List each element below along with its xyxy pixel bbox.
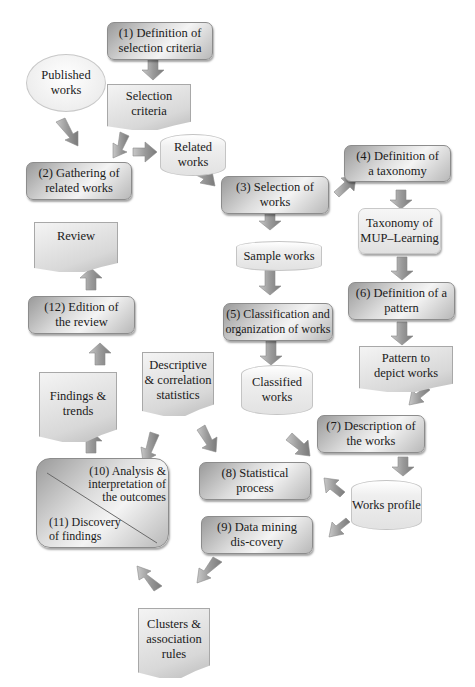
step-4-label: (4) Definition of a taxonomy — [353, 149, 443, 179]
step-2-label: (2) Gathering of related works — [34, 166, 124, 196]
selection-criteria-label: Selection criteria — [119, 89, 179, 119]
published-works-cloud: Published works — [26, 54, 106, 112]
step-6-label: (6) Definition of a pattern — [356, 286, 448, 316]
pattern-to-depict-works-document: Pattern to depict works — [359, 346, 453, 392]
step-8-statistical-process: (8) Statistical process — [199, 462, 311, 500]
sample-works-database: Sample works — [236, 241, 322, 271]
clusters-association-rules-document: Clusters & association rules — [138, 608, 210, 678]
findings-and-trends-document: Findings & trends — [39, 372, 117, 442]
step-9-label: (9) Data mining dis-covery — [207, 520, 307, 550]
step-7-label: (7) Description of the works — [319, 419, 423, 449]
step-6-definition-of-a-pattern: (6) Definition of a pattern — [348, 282, 455, 320]
step-12-label: (12) Edition of the review — [42, 300, 122, 330]
step-5-classification-and-organization: (5) Classification and organization of w… — [223, 303, 333, 341]
review-label: Review — [57, 229, 95, 244]
sample-works-label: Sample works — [243, 249, 314, 264]
step-9-data-mining-discovery: (9) Data mining dis-covery — [201, 516, 313, 554]
step-10-11-analysis-and-discovery: (10) Analysis & interpretation of the ou… — [36, 458, 169, 548]
works-profile-label: Works profile — [352, 498, 421, 513]
selection-criteria-document: Selection criteria — [107, 84, 191, 130]
step-1-definition-of-selection-criteria: (1) Definition of selection criteria — [107, 22, 213, 60]
step-4-definition-of-a-taxonomy: (4) Definition of a taxonomy — [344, 145, 451, 182]
step-12-edition-of-the-review: (12) Edition of the review — [28, 296, 135, 334]
related-works-database: Related works — [160, 134, 226, 176]
step-11-label: (11) Discovery of findings — [49, 515, 121, 543]
step-10-label: (10) Analysis & interpretation of the ou… — [84, 465, 166, 504]
review-document: Review — [34, 222, 118, 272]
works-profile-database: Works profile — [351, 480, 422, 530]
published-works-label: Published works — [36, 68, 96, 98]
taxonomy-label: Taxonomy of MUP–Learning — [360, 216, 440, 246]
taxonomy-of-mup-learning: Taxonomy of MUP–Learning — [358, 208, 441, 254]
step-8-label: (8) Statistical process — [220, 466, 290, 496]
pattern-label: Pattern to depict works — [366, 351, 446, 381]
step-7-description-of-the-works: (7) Description of the works — [317, 415, 425, 453]
classified-works-database: Classified works — [241, 365, 313, 415]
clusters-label: Clusters & association rules — [142, 617, 206, 662]
classified-works-label: Classified works — [247, 375, 307, 405]
related-works-label: Related works — [168, 140, 218, 170]
step-2-gathering-of-related-works: (2) Gathering of related works — [26, 162, 132, 200]
step-3-label: (3) Selection of works — [235, 180, 315, 210]
step-5-label: (5) Classification and organization of w… — [224, 307, 332, 337]
step-3-selection-of-works: (3) Selection of works — [221, 176, 329, 214]
step-1-label: (1) Definition of selection criteria — [108, 26, 212, 56]
findings-label: Findings & trends — [48, 389, 108, 419]
descriptive-label: Descriptive & correlation statistics — [143, 358, 213, 403]
descriptive-correlation-statistics-document: Descriptive & correlation statistics — [142, 352, 214, 416]
